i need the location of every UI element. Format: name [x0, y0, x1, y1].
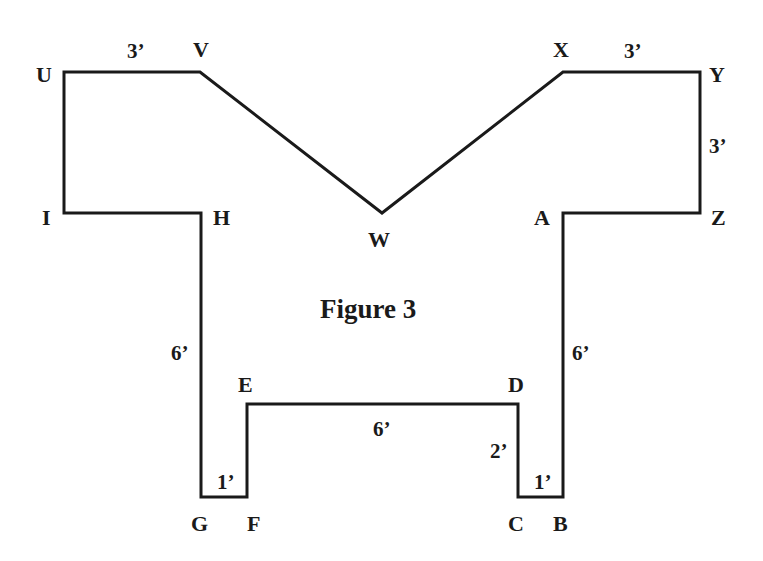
vertex-label-v: V [193, 37, 209, 62]
figure-3-diagram: U V W X Y Z A B C D E F G H I 3’ 3’ 3’ 6… [0, 0, 763, 561]
vertex-label-h: H [213, 205, 230, 230]
vertex-label-f: F [247, 511, 260, 536]
dimension-uv: 3’ [127, 39, 145, 63]
vertex-label-d: D [508, 372, 524, 397]
vertex-label-w: W [368, 227, 390, 252]
vertex-label-g: G [191, 511, 208, 536]
dimension-yz: 3’ [709, 134, 727, 158]
vertex-label-e: E [238, 372, 253, 397]
dimension-ed: 6’ [373, 417, 391, 441]
vertex-label-z: Z [711, 205, 726, 230]
vertex-label-a: A [534, 205, 550, 230]
vertex-label-b: B [553, 511, 568, 536]
dimension-xy: 3’ [624, 39, 642, 63]
vertex-label-i: I [42, 205, 51, 230]
figure-title: Figure 3 [320, 294, 416, 324]
dimension-gh: 6’ [171, 341, 189, 365]
dimension-ab: 6’ [572, 341, 590, 365]
dimension-cd: 2’ [490, 439, 508, 463]
vertex-label-x: X [553, 37, 569, 62]
vertex-label-c: C [508, 511, 524, 536]
vertex-label-y: Y [709, 62, 725, 87]
vertex-label-u: U [36, 62, 52, 87]
dimension-cb: 1’ [534, 470, 552, 494]
dimension-gf: 1’ [217, 470, 235, 494]
